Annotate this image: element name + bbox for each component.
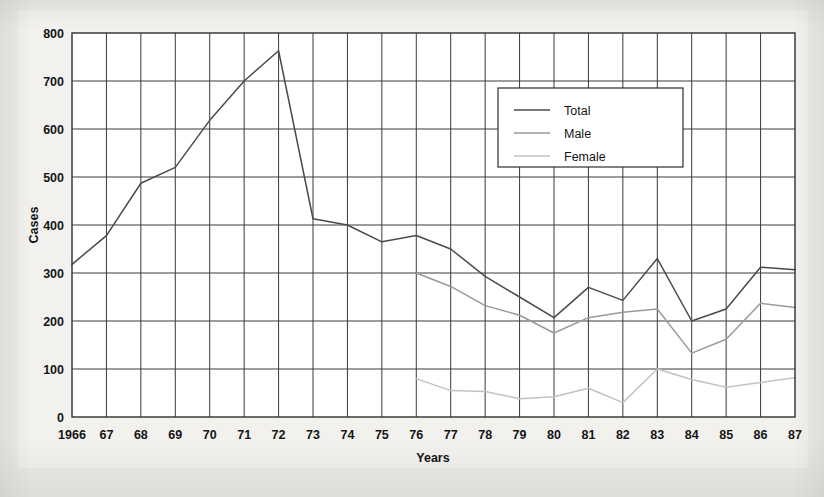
x-tick-label: 83	[650, 428, 664, 442]
x-tick-label: 78	[478, 428, 492, 442]
y-tick-label: 200	[43, 315, 64, 329]
y-tick-label: 400	[43, 219, 64, 233]
y-tick-label: 300	[43, 267, 64, 281]
y-tick-label: 700	[43, 75, 64, 89]
chart-figure: 0100200300400500600700800 19666768697071…	[18, 10, 808, 468]
legend-label-total: Total	[564, 104, 590, 118]
x-tick-label: 68	[134, 428, 148, 442]
x-tick-label: 74	[340, 428, 354, 442]
x-tick-label: 75	[375, 428, 389, 442]
legend-label-male: Male	[564, 127, 591, 141]
x-tick-label: 72	[272, 428, 286, 442]
line-chart: 0100200300400500600700800 19666768697071…	[18, 10, 808, 468]
x-tick-label: 84	[685, 428, 699, 442]
x-tick-label: 67	[99, 428, 113, 442]
x-tick-label: 87	[788, 428, 802, 442]
x-axis-title: Years	[416, 451, 449, 465]
x-tick-label: 73	[306, 428, 320, 442]
x-tick-label: 81	[581, 428, 595, 442]
x-tick-label: 79	[513, 428, 527, 442]
chart-legend: Total Male Female	[498, 88, 683, 167]
x-tick-label: 82	[616, 428, 630, 442]
x-tick-label: 76	[409, 428, 423, 442]
x-tick-label: 80	[547, 428, 561, 442]
y-axis-title: Cases	[27, 207, 41, 244]
x-tick-label: 77	[444, 428, 458, 442]
y-tick-label: 100	[43, 363, 64, 377]
x-tick-label: 86	[754, 428, 768, 442]
legend-label-female: Female	[564, 150, 606, 164]
x-tick-label: 70	[203, 428, 217, 442]
y-tick-label: 500	[43, 171, 64, 185]
x-tick-label: 1966	[58, 428, 86, 442]
x-tick-label: 71	[237, 428, 251, 442]
x-axis-tick-labels: 1966676869707172737475767778798081828384…	[58, 428, 802, 442]
y-tick-label: 600	[43, 123, 64, 137]
x-tick-label: 69	[168, 428, 182, 442]
x-tick-label: 85	[719, 428, 733, 442]
y-axis-tick-labels: 0100200300400500600700800	[43, 27, 64, 425]
figure-page: 0100200300400500600700800 19666768697071…	[0, 0, 824, 497]
y-tick-label: 0	[57, 411, 64, 425]
y-tick-label: 800	[43, 27, 64, 41]
